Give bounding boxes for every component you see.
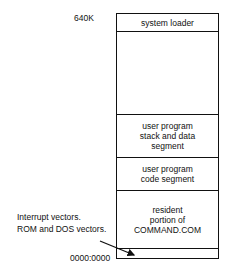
arrow-icon [0, 0, 230, 280]
